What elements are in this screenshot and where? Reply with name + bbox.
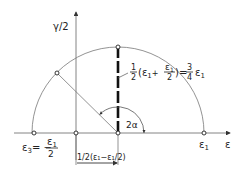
- shear-expr-open: (ε1+: [138, 67, 158, 80]
- radius-line: [57, 73, 118, 133]
- eps1-label: ε1: [199, 139, 209, 152]
- shear-frac-num: ε1: [165, 62, 174, 73]
- eps3-fraction-den: 2: [48, 149, 54, 159]
- shear-result-eps: ε1: [195, 67, 205, 80]
- point-origin: [74, 131, 78, 135]
- point-eps3: [32, 131, 36, 135]
- point-top: [116, 45, 120, 49]
- dimension-label: 1/2(ε₁−ε₁/2): [77, 153, 126, 162]
- shear-frac-den: 2: [167, 73, 172, 82]
- shear-result-num: 3: [187, 63, 192, 72]
- shear-half-num: 1: [131, 63, 136, 72]
- shear-result-den: 4: [187, 73, 192, 82]
- angle-label: 2α: [126, 120, 138, 130]
- point-left: [55, 71, 59, 75]
- angle-tick-icon: [143, 130, 146, 133]
- annotation-leader: [118, 73, 128, 78]
- point-eps1: [202, 131, 206, 135]
- mohr-semicircle: [32, 47, 204, 133]
- angle-arrow-icon: [100, 111, 103, 115]
- gamma-axis-label: γ/2: [53, 21, 69, 32]
- epsilon-axis-label: ε: [225, 139, 230, 150]
- shear-expr-close: )=: [175, 67, 187, 78]
- shear-half-den: 2: [131, 73, 136, 82]
- point-center: [116, 131, 120, 135]
- mohr-circle-diagram: γ/2 ε ε1 ε3= − ε1 2 1 2 (ε1+ ε1 2 )= 3 4…: [0, 0, 249, 175]
